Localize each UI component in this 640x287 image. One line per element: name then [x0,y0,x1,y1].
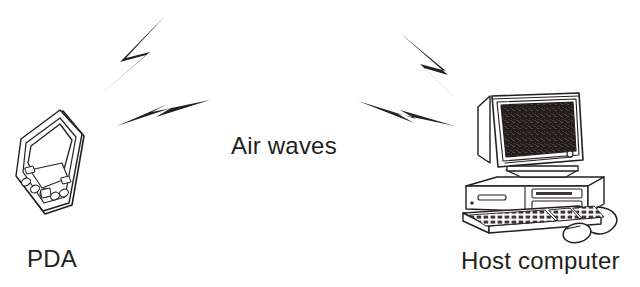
case-top [466,177,604,186]
bolt-upper-right-icon [400,33,470,112]
label-air-waves: Air waves [231,132,337,160]
monitor-left-side [478,96,490,163]
power-led [470,201,474,205]
case-floppy-slot [478,195,506,200]
pda-illustration [16,110,84,214]
monitor-screen [501,102,576,157]
label-host-computer: Host computer [461,247,620,275]
host-computer-illustration [463,93,617,245]
case-cd-tray [536,192,572,195]
diagram-figure: Air waves PDA Host computer [0,0,640,287]
monitor-power-button [567,151,573,157]
monitor-neck [507,166,578,171]
bolt-upper-left-icon [100,15,166,95]
label-pda: PDA [27,245,77,273]
bolt-lower-right-icon [358,101,455,126]
airwave-bolts [100,15,470,126]
pda-rocker [41,188,51,198]
bolt-lower-left-icon [117,100,210,126]
pda-key-right [61,176,71,184]
pda-key-left [25,166,35,174]
